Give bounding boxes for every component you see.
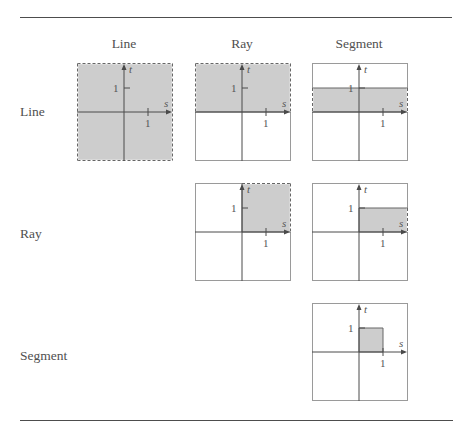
s-tick-label: 1 [263, 237, 269, 249]
t-tick-label: 1 [348, 82, 354, 94]
domain-plot-line-segment: ts11 [312, 63, 408, 161]
column-header-line: Line [69, 36, 179, 52]
t-axis-arrow-icon [357, 304, 362, 310]
t-axis-label: t [364, 63, 368, 75]
s-axis-label: s [164, 97, 168, 109]
s-axis-label: s [399, 337, 403, 349]
row-label-ray: Ray [20, 226, 42, 242]
t-axis-label: t [364, 303, 368, 315]
domain-plot-line-ray: ts11 [195, 63, 291, 161]
domain-plot-segment-segment: ts11 [312, 303, 408, 401]
s-tick-label: 1 [380, 237, 386, 249]
column-header-ray: Ray [187, 36, 297, 52]
s-axis-label: s [399, 97, 403, 109]
t-tick-label: 1 [113, 82, 119, 94]
shaded-region [313, 88, 408, 112]
s-axis-label: s [282, 97, 286, 109]
s-tick-label: 1 [380, 117, 386, 129]
column-header-segment: Segment [304, 36, 414, 52]
s-axis-label: s [282, 217, 286, 229]
s-tick-label: 1 [380, 357, 386, 369]
s-tick-label: 1 [145, 117, 151, 129]
domain-plot-line-line: ts11 [77, 63, 173, 161]
shaded-region [359, 328, 383, 352]
row-label-line: Line [20, 104, 45, 120]
t-tick-label: 1 [348, 322, 354, 334]
t-axis-arrow-icon [357, 64, 362, 70]
s-tick-label: 1 [263, 117, 269, 129]
s-axis-label: s [399, 217, 403, 229]
row-label-segment: Segment [20, 348, 67, 364]
bottom-rule [20, 420, 453, 421]
t-tick-label: 1 [231, 202, 237, 214]
t-tick-label: 1 [348, 202, 354, 214]
t-axis-label: t [364, 183, 368, 195]
domain-plot-ray-segment: ts11 [312, 183, 408, 281]
domain-plot-ray-ray: ts11 [195, 183, 291, 281]
t-axis-arrow-icon [357, 184, 362, 190]
s-axis-arrow-icon [401, 350, 407, 355]
t-tick-label: 1 [231, 82, 237, 94]
top-rule [20, 17, 452, 18]
